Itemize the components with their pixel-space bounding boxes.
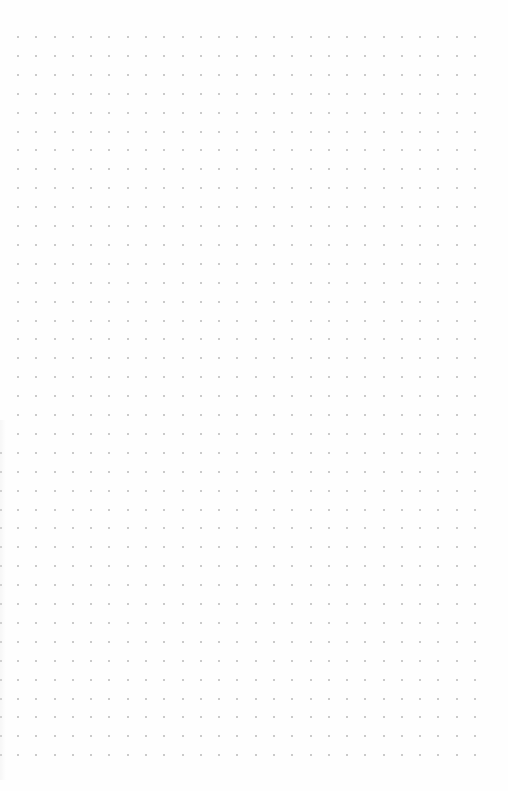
grid-dot — [364, 187, 366, 189]
grid-dot — [383, 490, 385, 492]
grid-dot — [127, 55, 129, 57]
grid-dot — [127, 641, 129, 643]
grid-dot — [273, 131, 275, 133]
grid-dot — [273, 395, 275, 397]
grid-dot — [273, 698, 275, 700]
grid-dot — [108, 74, 110, 76]
grid-dot — [474, 622, 476, 624]
grid-dot — [310, 679, 312, 681]
grid-dot — [163, 93, 165, 95]
grid-dot — [236, 452, 238, 454]
grid-dot — [17, 414, 19, 416]
grid-dot — [90, 282, 92, 284]
grid-dot — [310, 433, 312, 435]
grid-dot — [456, 716, 458, 718]
grid-dot — [419, 263, 421, 265]
grid-dot — [108, 376, 110, 378]
grid-dot — [474, 376, 476, 378]
grid-dot — [35, 660, 37, 662]
grid-dot — [346, 131, 348, 133]
grid-dot — [218, 660, 220, 662]
grid-dot — [90, 584, 92, 586]
grid-dot — [291, 225, 293, 227]
grid-dot — [273, 414, 275, 416]
grid-dot — [401, 301, 403, 303]
grid-dot — [145, 225, 147, 227]
grid-dot — [383, 546, 385, 548]
grid-dot — [200, 338, 202, 340]
grid-dot — [437, 263, 439, 265]
grid-dot — [255, 263, 257, 265]
grid-dot — [90, 433, 92, 435]
grid-dot — [218, 509, 220, 511]
grid-dot — [90, 565, 92, 567]
grid-dot — [90, 716, 92, 718]
grid-dot — [200, 452, 202, 454]
grid-dot — [72, 414, 74, 416]
grid-dot — [255, 320, 257, 322]
grid-dot — [72, 225, 74, 227]
grid-dot — [90, 301, 92, 303]
grid-dot — [310, 149, 312, 151]
grid-dot — [255, 641, 257, 643]
grid-dot — [108, 225, 110, 227]
grid-dot — [364, 433, 366, 435]
grid-dot — [456, 433, 458, 435]
grid-dot — [236, 320, 238, 322]
grid-dot — [474, 509, 476, 511]
grid-dot — [273, 282, 275, 284]
grid-dot — [108, 565, 110, 567]
grid-dot — [273, 584, 275, 586]
grid-dot — [236, 490, 238, 492]
grid-dot — [328, 660, 330, 662]
grid-dot — [90, 338, 92, 340]
grid-dot — [291, 320, 293, 322]
grid-dot — [401, 376, 403, 378]
grid-dot — [108, 433, 110, 435]
grid-dot — [108, 698, 110, 700]
grid-dot — [383, 282, 385, 284]
grid-dot — [364, 452, 366, 454]
grid-dot — [255, 452, 257, 454]
grid-dot — [437, 679, 439, 681]
grid-dot — [401, 546, 403, 548]
grid-dot — [419, 660, 421, 662]
grid-dot — [401, 36, 403, 38]
grid-dot — [182, 244, 184, 246]
grid-dot — [72, 301, 74, 303]
grid-dot — [328, 357, 330, 359]
grid-dot — [35, 168, 37, 170]
grid-dot — [419, 395, 421, 397]
grid-dot — [108, 527, 110, 529]
grid-dot — [273, 565, 275, 567]
grid-dot — [90, 735, 92, 737]
grid-dot — [310, 320, 312, 322]
grid-dot — [54, 36, 56, 38]
grid-dot — [17, 36, 19, 38]
grid-dot — [456, 584, 458, 586]
grid-dot — [17, 206, 19, 208]
grid-dot — [145, 263, 147, 265]
grid-dot — [145, 716, 147, 718]
grid-dot — [364, 490, 366, 492]
grid-dot — [419, 376, 421, 378]
grid-dot — [200, 301, 202, 303]
grid-dot — [200, 754, 202, 756]
grid-dot — [291, 754, 293, 756]
grid-dot — [200, 74, 202, 76]
grid-dot — [291, 433, 293, 435]
grid-dot — [17, 754, 19, 756]
grid-dot — [145, 55, 147, 57]
grid-dot — [200, 433, 202, 435]
grid-dot — [218, 338, 220, 340]
grid-dot — [236, 509, 238, 511]
grid-dot — [200, 131, 202, 133]
grid-dot — [127, 376, 129, 378]
grid-dot — [35, 131, 37, 133]
grid-dot — [419, 433, 421, 435]
grid-dot — [310, 112, 312, 114]
grid-dot — [90, 74, 92, 76]
grid-dot — [35, 754, 37, 756]
grid-dot — [346, 546, 348, 548]
grid-dot — [419, 225, 421, 227]
